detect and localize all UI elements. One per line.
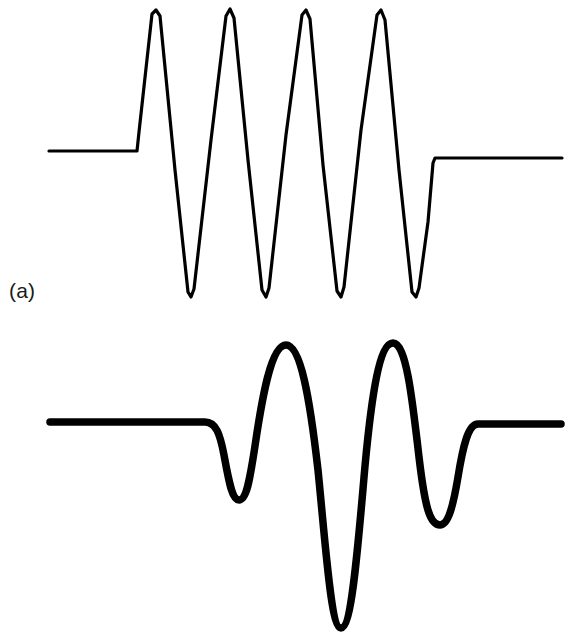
waveform-a-svg: [0, 0, 569, 320]
panel-a-label: (a): [9, 280, 35, 301]
panel-a-waveform-burst: (a): [0, 0, 569, 320]
figure-root: (a) (b): [0, 0, 569, 639]
waveform-a-path: [49, 9, 562, 297]
panel-b-waveform-packet: (b): [0, 320, 569, 639]
waveform-b-path: [50, 343, 561, 628]
waveform-b-svg: [0, 320, 569, 639]
